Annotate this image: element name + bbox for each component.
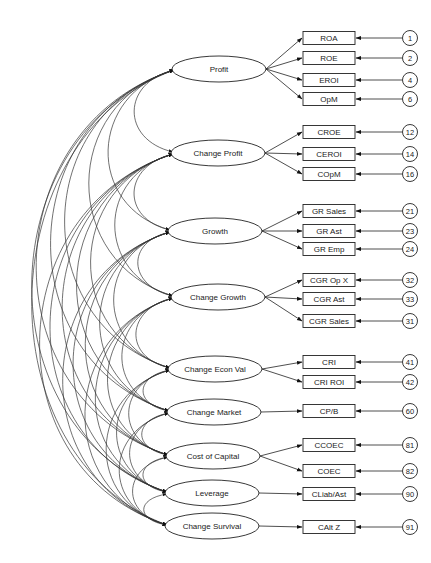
loading-path-leverage-cliab-ast bbox=[259, 493, 302, 494]
covariance-arc-change-profit-leverage bbox=[50, 154, 173, 492]
indicator-label: GR Ast bbox=[316, 227, 342, 236]
error-term-24[interactable]: 24 bbox=[403, 242, 418, 257]
latent-factor-change-growth[interactable]: Change Growth bbox=[171, 284, 265, 310]
indicator-opm[interactable]: OpM bbox=[303, 93, 355, 106]
loading-path-change-growth-cgr-sales bbox=[265, 297, 302, 321]
error-label: 23 bbox=[406, 227, 414, 236]
latent-factor-cost-of-capital[interactable]: Cost of Capital bbox=[166, 443, 260, 469]
loading-path-change-profit-copm bbox=[265, 153, 302, 174]
indicator-label: CAlt Z bbox=[318, 523, 340, 532]
covariance-arc-profit-cost-of-capital bbox=[36, 70, 174, 455]
error-term-16[interactable]: 16 bbox=[403, 167, 418, 182]
error-term-1[interactable]: 1 bbox=[403, 31, 418, 46]
latent-label: Change Profit bbox=[194, 149, 244, 158]
loading-path-change-econ-val-cri bbox=[262, 362, 302, 369]
error-label: 81 bbox=[406, 441, 414, 450]
error-term-32[interactable]: 32 bbox=[403, 273, 418, 288]
error-label: 90 bbox=[406, 490, 414, 499]
indicator-cgr-sales[interactable]: CGR Sales bbox=[303, 315, 355, 328]
latent-factor-profit[interactable]: Profit bbox=[172, 56, 266, 82]
loading-path-change-profit-croe bbox=[265, 132, 302, 153]
indicator-label: ROA bbox=[320, 34, 338, 43]
latent-label: Change Survival bbox=[183, 522, 242, 531]
error-term-6[interactable]: 6 bbox=[403, 92, 418, 107]
error-term-33[interactable]: 33 bbox=[403, 292, 418, 307]
error-term-90[interactable]: 90 bbox=[403, 487, 418, 502]
indicator-gr-ast[interactable]: GR Ast bbox=[303, 225, 355, 238]
latent-factor-growth[interactable]: Growth bbox=[168, 218, 262, 244]
indicator-label: CGR Op X bbox=[310, 276, 349, 285]
covariance-arc-change-profit-change-econ-val bbox=[91, 154, 173, 368]
latent-label: Change Growth bbox=[190, 293, 246, 302]
covariance-arc-profit-change-profit bbox=[134, 70, 174, 152]
loading-path-profit-opm bbox=[266, 69, 302, 99]
indicator-calt-z[interactable]: CAlt Z bbox=[303, 521, 355, 534]
indicator-cp-b[interactable]: CP/B bbox=[303, 405, 355, 418]
latent-label: Change Econ Val bbox=[184, 365, 246, 374]
indicator-label: COEC bbox=[317, 467, 340, 476]
indicator-label: OpM bbox=[320, 95, 338, 104]
indicator-label: CROE bbox=[317, 128, 340, 137]
indicator-gr-sales[interactable]: GR Sales bbox=[303, 205, 355, 218]
error-label: 41 bbox=[406, 358, 414, 367]
loading-path-change-survival-calt-z bbox=[259, 526, 302, 527]
indicator-ceroi[interactable]: CEROI bbox=[303, 148, 355, 161]
sem-path-diagram: ProfitROA1ROE2EROI4OpM6Change ProfitCROE… bbox=[0, 0, 431, 563]
indicator-label: CCOEC bbox=[315, 441, 344, 450]
indicator-cgr-ast[interactable]: CGR Ast bbox=[303, 293, 355, 306]
indicator-copm[interactable]: COpM bbox=[303, 168, 355, 181]
indicator-cri-roi[interactable]: CRI ROI bbox=[303, 376, 355, 389]
indicator-eroi[interactable]: EROI bbox=[303, 74, 355, 87]
error-label: 1 bbox=[408, 34, 412, 43]
indicator-roa[interactable]: ROA bbox=[303, 32, 355, 45]
latent-factor-change-profit[interactable]: Change Profit bbox=[171, 140, 265, 166]
error-label: 60 bbox=[406, 407, 414, 416]
error-label: 42 bbox=[406, 378, 414, 387]
error-term-4[interactable]: 4 bbox=[403, 73, 418, 88]
covariance-arc-change-econ-val-cost-of-capital bbox=[129, 370, 170, 455]
error-term-42[interactable]: 42 bbox=[403, 375, 418, 390]
error-term-81[interactable]: 81 bbox=[403, 438, 418, 453]
indicator-label: CLiab/Ast bbox=[312, 490, 347, 499]
error-label: 31 bbox=[406, 317, 414, 326]
covariance-arc-change-econ-val-change-market bbox=[143, 370, 170, 411]
error-term-31[interactable]: 31 bbox=[403, 314, 418, 329]
indicator-label: GR Emp bbox=[314, 245, 345, 254]
covariance-arc-growth-change-econ-val bbox=[114, 232, 170, 368]
error-label: 21 bbox=[406, 207, 414, 216]
covariance-arc-profit-leverage bbox=[32, 70, 174, 492]
indicator-coec[interactable]: COEC bbox=[303, 465, 355, 478]
loading-path-growth-gr-emp bbox=[262, 231, 302, 249]
error-term-2[interactable]: 2 bbox=[403, 51, 418, 66]
error-term-41[interactable]: 41 bbox=[403, 355, 418, 370]
error-term-23[interactable]: 23 bbox=[403, 224, 418, 239]
latent-factor-change-market[interactable]: Change Market bbox=[167, 399, 261, 425]
latent-factor-leverage[interactable]: Leverage bbox=[165, 480, 259, 506]
indicator-cri[interactable]: CRI bbox=[303, 356, 355, 369]
error-label: 6 bbox=[408, 95, 412, 104]
indicator-gr-emp[interactable]: GR Emp bbox=[303, 243, 355, 256]
indicator-label: CGR Ast bbox=[313, 295, 345, 304]
error-term-82[interactable]: 82 bbox=[403, 464, 418, 479]
covariance-arc-profit-change-growth bbox=[89, 70, 174, 296]
latent-factor-change-survival[interactable]: Change Survival bbox=[165, 513, 259, 539]
indicator-label: CRI ROI bbox=[314, 378, 344, 387]
error-term-21[interactable]: 21 bbox=[403, 204, 418, 219]
covariance-arc-profit-change-market bbox=[51, 70, 174, 411]
covariance-arc-profit-change-econ-val bbox=[65, 70, 174, 368]
indicator-roe[interactable]: ROE bbox=[303, 52, 355, 65]
error-label: 2 bbox=[408, 54, 412, 63]
latent-factor-change-econ-val[interactable]: Change Econ Val bbox=[168, 356, 262, 382]
covariance-arc-growth-leverage bbox=[73, 232, 170, 492]
error-term-60[interactable]: 60 bbox=[403, 404, 418, 419]
latent-label: Change Market bbox=[187, 408, 242, 417]
error-term-91[interactable]: 91 bbox=[403, 520, 418, 535]
indicator-croe[interactable]: CROE bbox=[303, 126, 355, 139]
covariance-arc-change-market-cost-of-capital bbox=[142, 413, 169, 455]
error-term-14[interactable]: 14 bbox=[403, 147, 418, 162]
indicator-cliab-ast[interactable]: CLiab/Ast bbox=[303, 488, 355, 501]
indicator-cgr-op-x[interactable]: CGR Op X bbox=[303, 274, 355, 287]
indicator-ccoec[interactable]: CCOEC bbox=[303, 439, 355, 452]
error-term-12[interactable]: 12 bbox=[403, 125, 418, 140]
covariance-arc-growth-change-growth bbox=[138, 232, 173, 296]
